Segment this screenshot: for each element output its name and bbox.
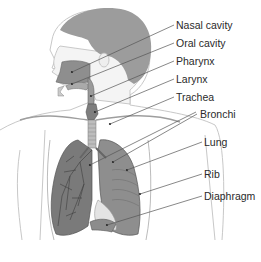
label-larynx: Larynx [176, 74, 208, 85]
larynx [86, 104, 98, 120]
label-lung: Lung [204, 137, 227, 148]
respiratory-diagram: Nasal cavity Oral cavity Pharynx Larynx … [0, 0, 261, 262]
label-trachea: Trachea [176, 92, 214, 103]
diaphragm [90, 219, 116, 232]
label-nasal-cavity: Nasal cavity [176, 20, 233, 31]
label-pharynx: Pharynx [176, 56, 215, 67]
label-diaphragm: Diaphragm [204, 191, 255, 202]
trachea [88, 120, 96, 148]
label-oral-cavity: Oral cavity [176, 38, 226, 49]
label-rib: Rib [204, 169, 220, 180]
left-lung [51, 140, 92, 235]
label-bronchi: Bronchi [200, 109, 236, 120]
